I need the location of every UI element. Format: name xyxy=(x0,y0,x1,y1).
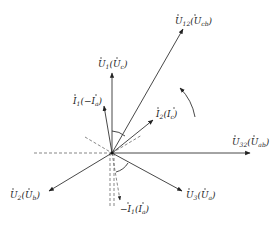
phasor-labels: U12(Ucb) U1(Uc) I1(−Ia) I2(Ic) U32(Uab) … xyxy=(10,16,270,215)
label-negI1: −I1(Ia) xyxy=(120,204,150,215)
label-I2: I2(Ic) xyxy=(155,109,178,120)
phasor-I2 xyxy=(112,120,153,153)
phasor-I1 xyxy=(104,106,112,153)
reference-lines xyxy=(34,135,142,207)
label-U2: U2(Ub) xyxy=(10,190,40,201)
phasor-arrows xyxy=(49,29,250,200)
phasor-U3 xyxy=(112,153,182,191)
label-U32: U32(Uab) xyxy=(232,137,270,148)
origin-point xyxy=(110,151,113,154)
label-U1: U1(Uc) xyxy=(98,59,128,70)
angle-arc-lower xyxy=(116,163,128,172)
label-U3: U3(Ua) xyxy=(186,190,216,201)
label-I1: I1(−Ia) xyxy=(72,96,103,107)
rotation-arrow-icon xyxy=(180,88,195,117)
label-U12: U12(Ucb) xyxy=(175,16,213,27)
phasor-negI1 xyxy=(112,153,120,200)
phasor-diagram: U12(Ucb) U1(Uc) I1(−Ia) I2(Ic) U32(Uab) … xyxy=(0,0,275,227)
phasor-dots xyxy=(12,14,254,203)
phasor-U2 xyxy=(49,153,112,191)
